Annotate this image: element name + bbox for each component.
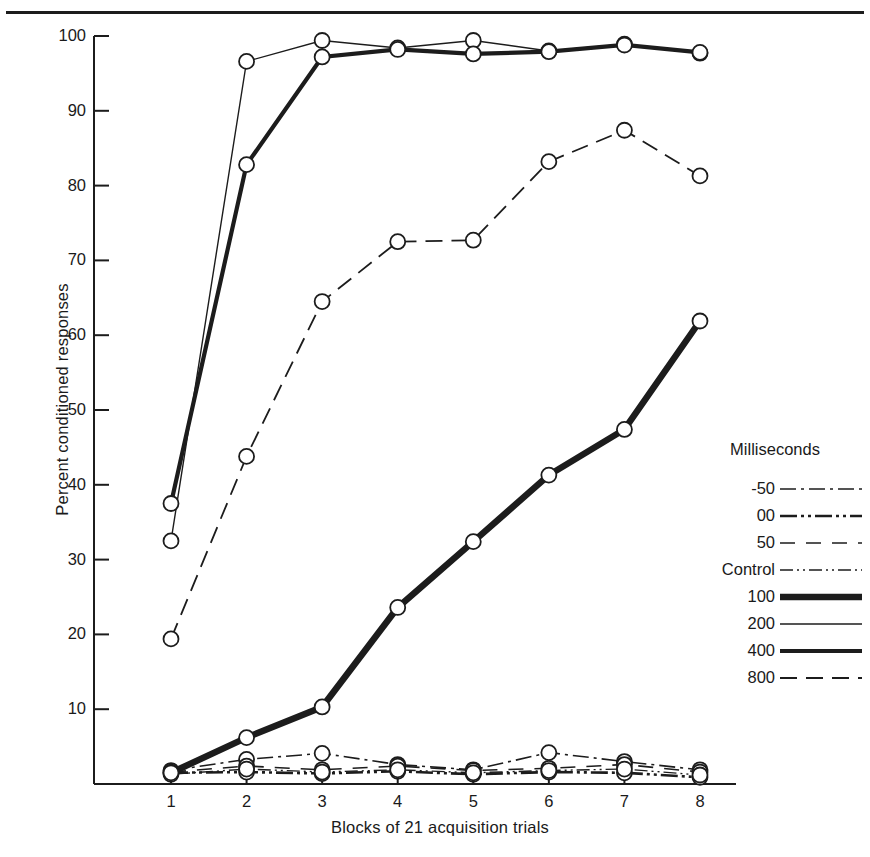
- data-series-group: [171, 40, 700, 777]
- x-tick-label: 1: [156, 793, 186, 810]
- data-point-marker: [541, 745, 556, 760]
- y-axis-ticks: [94, 36, 109, 709]
- legend-line-swatch: [778, 644, 864, 658]
- data-point-marker: [692, 45, 707, 60]
- y-tick-label: 50: [40, 401, 86, 418]
- data-point-marker: [541, 154, 556, 169]
- data-point-marker: [164, 765, 179, 780]
- x-tick-label: 5: [458, 793, 488, 810]
- y-tick-label: 70: [40, 251, 86, 268]
- data-point-marker: [315, 699, 330, 714]
- data-point-marker: [541, 44, 556, 59]
- legend-entries: -500050Control100200400800: [668, 475, 864, 691]
- data-point-marker: [692, 768, 707, 783]
- x-tick-label: 6: [534, 793, 564, 810]
- data-point-marker: [390, 762, 405, 777]
- data-point-marker: [239, 762, 254, 777]
- legend-entry: 800: [668, 664, 864, 691]
- legend: Milliseconds -500050Control100200400800: [668, 440, 864, 691]
- data-point-marker: [164, 631, 179, 646]
- data-point-marker: [239, 449, 254, 464]
- data-point-marker: [315, 49, 330, 64]
- figure: Percent conditioned responses Blocks of …: [0, 0, 870, 857]
- x-tick-label: 8: [685, 793, 715, 810]
- data-point-marker: [466, 765, 481, 780]
- legend-entry: 100: [668, 583, 864, 610]
- series-line: [171, 40, 700, 540]
- y-tick-label: 30: [40, 551, 86, 568]
- data-point-marker: [541, 468, 556, 483]
- data-point-marker: [390, 42, 405, 57]
- data-point-marker: [239, 54, 254, 69]
- data-point-marker: [315, 33, 330, 48]
- legend-entry-label: 400: [747, 641, 778, 660]
- series-line: [171, 130, 700, 639]
- y-tick-label: 60: [40, 326, 86, 343]
- legend-line-swatch: [778, 671, 864, 685]
- legend-entry: 200: [668, 610, 864, 637]
- data-series: [171, 130, 700, 639]
- legend-entry-label: 200: [747, 614, 778, 633]
- data-point-marker: [239, 730, 254, 745]
- legend-entry-label: -50: [751, 479, 778, 498]
- x-tick-label: 4: [383, 793, 413, 810]
- legend-line-swatch: [778, 482, 864, 496]
- data-point-marker: [315, 765, 330, 780]
- legend-line-swatch: [778, 509, 864, 523]
- y-tick-label: 10: [40, 700, 86, 717]
- x-tick-label: 3: [307, 793, 337, 810]
- legend-line-swatch: [778, 617, 864, 631]
- data-point-marker: [466, 233, 481, 248]
- data-point-marker: [617, 123, 632, 138]
- x-axis-title: Blocks of 21 acquisition trials: [160, 818, 720, 837]
- data-series: [171, 321, 700, 773]
- legend-entry: 00: [668, 502, 864, 529]
- legend-line-swatch: [778, 536, 864, 550]
- y-tick-label: 20: [40, 625, 86, 642]
- legend-line-swatch: [778, 590, 864, 604]
- line-chart-plot: [0, 0, 870, 857]
- x-tick-label: 7: [609, 793, 639, 810]
- data-point-marker: [466, 46, 481, 61]
- legend-entry: Control: [668, 556, 864, 583]
- legend-entry-label: 00: [757, 506, 778, 525]
- data-point-marker: [617, 422, 632, 437]
- data-point-marker: [541, 763, 556, 778]
- data-point-marker: [164, 533, 179, 548]
- data-point-marker: [617, 37, 632, 52]
- legend-entry-label: 50: [757, 533, 778, 552]
- data-point-marker: [692, 313, 707, 328]
- data-series: [171, 40, 700, 540]
- data-point-marker: [466, 534, 481, 549]
- y-tick-label: 80: [40, 177, 86, 194]
- data-point-marker: [315, 294, 330, 309]
- legend-entry: -50: [668, 475, 864, 502]
- data-point-marker: [315, 746, 330, 761]
- legend-entry: 50: [668, 529, 864, 556]
- y-tick-label: 90: [40, 102, 86, 119]
- series-line: [171, 321, 700, 773]
- data-point-marker: [617, 762, 632, 777]
- legend-entry-label: Control: [722, 560, 778, 579]
- legend-entry-label: 800: [747, 668, 778, 687]
- data-point-marker: [692, 168, 707, 183]
- legend-entry-label: 100: [747, 587, 778, 606]
- legend-entry: 400: [668, 637, 864, 664]
- data-point-marker: [390, 600, 405, 615]
- x-tick-label: 2: [232, 793, 262, 810]
- y-tick-label: 40: [40, 476, 86, 493]
- legend-title: Milliseconds: [686, 440, 864, 459]
- legend-line-swatch: [778, 563, 864, 577]
- data-point-markers: [164, 33, 708, 785]
- data-point-marker: [239, 157, 254, 172]
- data-point-marker: [390, 234, 405, 249]
- data-point-marker: [164, 496, 179, 511]
- y-tick-label: 100: [40, 27, 86, 44]
